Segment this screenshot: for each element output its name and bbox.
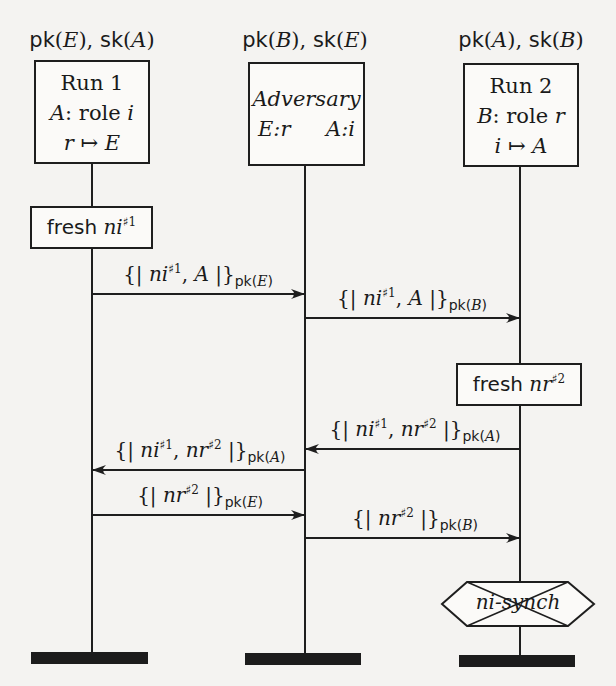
message-label-3: {| ni♯1, nr♯2 |}pk(A): [310, 417, 520, 441]
message-label-2: {| ni♯1, A |}pk(B): [312, 286, 512, 310]
adversary-role-right: A:i: [326, 114, 355, 144]
role-title: Run 1: [36, 68, 148, 98]
role-assignment: B: role r: [465, 101, 577, 131]
adversary-role-left: E:r: [258, 114, 290, 144]
message-label-4: {| ni♯1, nr♯2 |}pk(A): [95, 438, 305, 462]
role-mapping: i ↦ A: [465, 131, 577, 161]
lifeline-end-adversary: [245, 653, 361, 665]
role-mapping: r ↦ E: [36, 128, 148, 158]
claim-label-ni-synch: ni-synch: [462, 590, 574, 614]
role-assignment: A: role i: [36, 98, 148, 128]
role-box-run2: Run 2 B: role r i ↦ A: [463, 63, 579, 167]
role-box-run1: Run 1 A: role i r ↦ E: [34, 60, 150, 164]
role-title: Adversary: [250, 84, 363, 114]
message-label-1: {| ni♯1, A |}pk(E): [98, 262, 298, 286]
keys-label-run1: pk(E), sk(A): [22, 28, 162, 52]
lifeline-end-run1: [31, 652, 148, 664]
lifeline-end-run2: [459, 655, 575, 667]
fresh-event-nr: fresh nr♯2: [456, 363, 582, 406]
keys-label-run2: pk(A), sk(B): [451, 28, 591, 52]
message-label-6: {| nr♯2 |}pk(B): [325, 506, 505, 530]
role-title: Run 2: [465, 71, 577, 101]
keys-label-adversary: pk(B), sk(E): [236, 28, 374, 52]
message-label-5: {| nr♯2 |}pk(E): [110, 483, 290, 507]
fresh-event-ni: fresh ni♯1: [30, 206, 153, 249]
role-box-adversary: Adversary E:r A:i: [248, 62, 365, 166]
